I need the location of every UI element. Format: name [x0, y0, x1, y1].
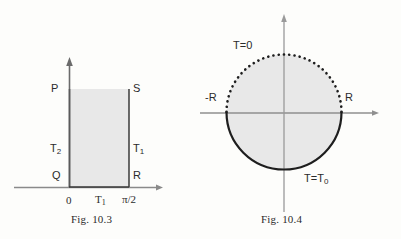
vertex-label-P: P	[51, 83, 58, 94]
edge-label-T2: T2	[50, 143, 61, 156]
figure-caption-10-4: Fig. 10.4	[261, 214, 302, 225]
boundary-label-upper-T-equals-0: T=0	[233, 40, 252, 51]
figure-page: P Q R S T2 T1 0 T1 π/2 Fig. 10.3	[0, 0, 401, 239]
boundary-label-lower-T-equals-T0: T=T0	[304, 173, 328, 186]
shaded-rectangle-region	[69, 89, 129, 187]
boundary-label-lower-base: T=T	[304, 172, 324, 184]
y-axis-arrowhead	[66, 57, 73, 66]
vertex-label-R: R	[133, 170, 141, 181]
edge-label-T1-base: T	[133, 142, 140, 154]
edge-label-T1: T1	[133, 143, 144, 156]
x-tick-label-T1: T1	[95, 194, 106, 207]
edge-label-T2-subscript: 2	[57, 147, 61, 156]
x-tick-label-T1-base: T	[95, 193, 102, 205]
x-tick-label-T1-subscript: 1	[102, 198, 106, 207]
edge-label-T1-subscript: 1	[140, 147, 144, 156]
y-axis-arrowhead	[281, 14, 287, 22]
figure-10-3: P Q R S T2 T1 0 T1 π/2 Fig. 10.3	[0, 0, 200, 239]
figure-caption-10-3: Fig. 10.3	[71, 214, 112, 225]
figure-10-4: T=0 T=T0 -R R Fig. 10.4	[200, 0, 401, 239]
boundary-label-lower-subscript: 0	[324, 177, 328, 186]
vertex-label-S: S	[133, 83, 140, 94]
x-tick-label-0: 0	[66, 195, 72, 206]
vertex-label-Q: Q	[52, 170, 61, 181]
x-tick-label-R: R	[345, 92, 353, 103]
x-axis-arrowhead	[372, 110, 379, 116]
edge-label-T2-base: T	[50, 142, 57, 154]
x-axis-arrowhead	[156, 185, 163, 191]
x-tick-label-pi-over-2: π/2	[122, 194, 136, 205]
figure-10-4-graphic	[200, 0, 401, 239]
x-tick-label-negative-R: -R	[205, 92, 217, 103]
